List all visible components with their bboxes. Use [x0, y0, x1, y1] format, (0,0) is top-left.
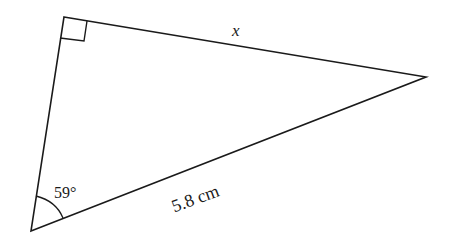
- right-angle-marker: [60, 21, 87, 41]
- triangle-diagram: x 59° 5.8 cm: [0, 0, 449, 247]
- hypotenuse-label: 5.8 cm: [169, 181, 222, 217]
- angle-label: 59°: [54, 184, 76, 201]
- side-x-label: x: [231, 21, 240, 40]
- triangle-outline: [31, 17, 426, 231]
